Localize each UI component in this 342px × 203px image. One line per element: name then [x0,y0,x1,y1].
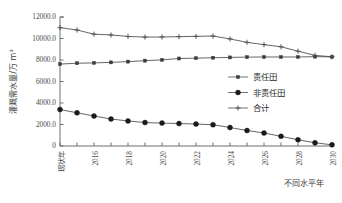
series-2-point-plus-marker [159,34,164,39]
series-2-point-plus-marker [91,32,96,37]
series-1-point-circle-marker [279,134,284,139]
x-axis-tick-label: 2028 [295,151,304,166]
series-0-point-square-marker [75,62,78,65]
series-1-point-circle-marker [109,117,114,122]
y-axis-tick-label: 12000.0 [32,12,56,21]
legend-2-plus-marker [235,105,240,110]
series-1-point-circle-marker [177,121,182,126]
x-axis-tick-label: 2030 [329,151,338,166]
series-2-point-plus-marker [295,49,300,54]
series-2-point-plus-marker [312,53,317,58]
x-axis-tick-label: 2024 [227,151,236,166]
series-2-point-plus-marker [329,54,334,59]
x-axis-tick-label: 2026 [261,151,270,166]
x-axis-title: 不同水平年 [284,178,324,188]
series-2-point-plus-marker [108,32,113,37]
series-0-point-square-marker [245,56,248,59]
series-0-point-square-marker [194,57,197,60]
series-2-point-plus-marker [176,34,181,39]
series-0-point-square-marker [160,58,163,61]
series-2-point-plus-marker [210,33,215,38]
series-line-1 [60,110,332,145]
series-0-point-square-marker [228,56,231,59]
series-2-point-plus-marker [142,35,147,40]
y-axis-tick-label: 6000.0 [36,77,56,86]
series-0-point-square-marker [262,55,265,58]
series-1-point-circle-marker [143,120,148,125]
series-2-point-plus-marker [57,25,62,30]
x-axis-tick-label: 现状年 [57,151,66,172]
x-axis-tick-label: 2016 [91,151,100,166]
series-0-point-square-marker [143,59,146,62]
series-2-point-plus-marker [74,27,79,32]
series-1-point-circle-marker [194,122,199,127]
series-1-point-circle-marker [75,110,80,115]
legend-label-1: 非责任田 [253,88,285,98]
series-0-point-square-marker [279,55,282,58]
series-1-point-circle-marker [126,118,131,123]
legend-1-circle-marker [236,90,241,95]
y-axis-title: 灌溉需水量/万 m³ [8,49,18,113]
series-1-point-circle-marker [245,128,250,133]
series-0-point-square-marker [296,55,299,58]
series-2-point-plus-marker [278,44,283,49]
legend-label-2: 合计 [253,103,270,113]
series-2-point-plus-marker [244,40,249,45]
series-0-point-square-marker [58,63,61,66]
y-axis-tick-label: 4000.0 [36,98,56,107]
series-1-point-circle-marker [262,130,267,135]
series-1-point-circle-marker [296,137,301,142]
y-axis-tick-label: 8000.0 [36,55,56,64]
series-2-point-plus-marker [193,34,198,39]
series-line-2 [60,28,332,57]
irrigation-demand-line-chart: 02000.04000.06000.08000.010000.012000.0现… [0,0,342,203]
series-1-point-circle-marker [211,122,216,127]
series-0-point-square-marker [109,61,112,64]
y-axis-tick-label: 0 [52,141,56,150]
x-axis-tick-label: 2022 [193,151,202,166]
legend-0-square-marker [236,75,239,78]
series-2-point-plus-marker [125,34,130,39]
series-0-point-square-marker [126,60,129,63]
series-0-point-square-marker [177,57,180,60]
series-1-point-circle-marker [160,121,165,126]
series-1-point-circle-marker [58,107,63,112]
series-0-point-square-marker [92,61,95,64]
series-2-point-plus-marker [227,36,232,41]
x-axis-tick-label: 2018 [125,151,134,166]
chart-container: 02000.04000.06000.08000.010000.012000.0现… [0,0,342,203]
series-2-point-plus-marker [261,42,266,47]
y-axis-tick-label: 10000.0 [32,34,56,43]
series-1-point-circle-marker [330,142,335,147]
x-axis-tick-label: 2020 [159,151,168,166]
legend-label-0: 责任田 [253,72,277,82]
series-1-point-circle-marker [313,140,318,145]
series-1-point-circle-marker [228,125,233,130]
series-0-point-square-marker [211,56,214,59]
y-axis-tick-label: 2000.0 [36,120,56,129]
series-1-point-circle-marker [92,114,97,119]
